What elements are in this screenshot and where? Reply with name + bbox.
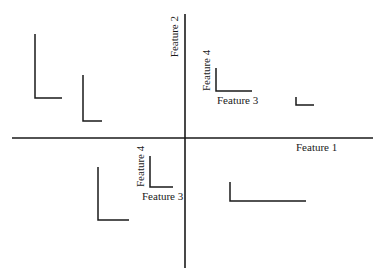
glyph-marker	[35, 34, 62, 98]
y-axis-label: Feature 2	[168, 16, 180, 57]
legend-horizontal-label: Feature 3	[142, 190, 184, 202]
glyph-legends: Feature 3Feature 4Feature 3Feature 4	[134, 49, 259, 202]
glyph-marker	[230, 182, 306, 201]
glyph-scatter-diagram: Feature 1 Feature 2 Feature 3Feature 4Fe…	[0, 0, 382, 279]
legend-vertical-label: Feature 4	[134, 145, 146, 187]
glyph-marker	[83, 75, 102, 121]
legend-top-right: Feature 3Feature 4	[200, 49, 259, 106]
x-axis-label: Feature 1	[296, 141, 337, 153]
legend-vertical-label: Feature 4	[200, 49, 212, 91]
legend-glyph	[216, 68, 252, 91]
glyph-marker	[296, 97, 314, 105]
glyph-marker	[98, 167, 129, 220]
legend-bottom-left: Feature 3Feature 4	[134, 145, 184, 202]
plot-area: Feature 1 Feature 2 Feature 3Feature 4Fe…	[0, 0, 382, 279]
legend-horizontal-label: Feature 3	[217, 94, 259, 106]
legend-glyph	[150, 156, 173, 187]
